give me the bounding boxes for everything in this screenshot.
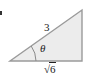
angle-theta-label: θ [40, 43, 45, 54]
radicand: 6 [49, 62, 56, 75]
hypotenuse-label: 3 [44, 22, 50, 33]
triangle-figure: 3 θ √6 [0, 0, 89, 80]
adjacent-side-label: √6 [44, 64, 56, 75]
triangle-shape [10, 10, 82, 61]
